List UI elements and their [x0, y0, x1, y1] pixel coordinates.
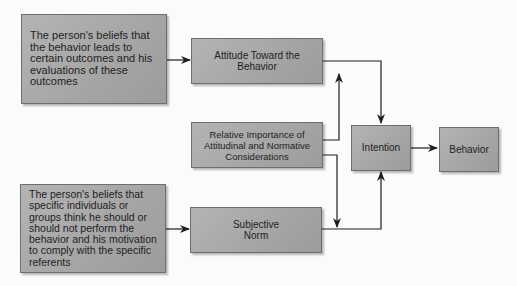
node-subjective-norm: Subjective Norm [190, 207, 322, 253]
arrow-relative-importance-down [323, 155, 337, 227]
arrow-attitude-to-intention [323, 61, 381, 123]
arrow-subjective-norm-to-intention [322, 172, 381, 229]
node-relative-importance-label: Relative Importance of Attitudinal and N… [194, 129, 320, 162]
node-intention: Intention [351, 125, 411, 171]
node-attitude-label: Attitude Toward the Behavior [212, 50, 302, 73]
node-relative-importance: Relative Importance of Attitudinal and N… [191, 122, 323, 168]
node-normative-beliefs: The person's beliefs that specific indiv… [20, 184, 166, 273]
node-normative-beliefs-label: The person's beliefs that specific indiv… [29, 189, 157, 267]
node-subjective-norm-label: Subjective Norm [231, 219, 281, 242]
node-behavior-label: Behavior [449, 144, 488, 156]
arrow-relative-importance-up [323, 74, 339, 140]
node-behavior: Behavior [439, 127, 499, 172]
node-beliefs-outcomes: The person's beliefs that the behavior l… [21, 14, 167, 104]
node-beliefs-outcomes-label: The person's beliefs that the behavior l… [30, 30, 158, 88]
node-intention-label: Intention [362, 142, 400, 154]
node-attitude: Attitude Toward the Behavior [191, 38, 323, 84]
